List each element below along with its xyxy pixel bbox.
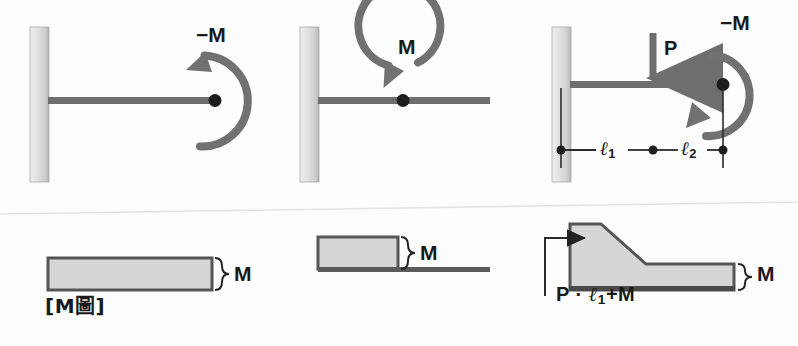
peak-label-prefix: P bbox=[556, 283, 569, 305]
moment-arrow-ccw-3 bbox=[686, 55, 750, 136]
moment-label-case-2: M bbox=[398, 36, 416, 57]
peak-moment-label: P · ℓ1+M bbox=[556, 284, 635, 307]
peak-label-ell: ℓ bbox=[589, 283, 598, 305]
moment-value-label-3: M bbox=[757, 263, 775, 284]
moment-value-label-1: M bbox=[234, 263, 252, 284]
peak-label-subscript: 1 bbox=[598, 292, 606, 307]
moment-value-label-2: M bbox=[420, 242, 438, 263]
dimension-node-left bbox=[557, 146, 566, 155]
wall-support-1 bbox=[30, 27, 49, 182]
dimension-l1-symbol: ℓ bbox=[600, 138, 608, 159]
dimension-l1-subscript: 1 bbox=[608, 146, 615, 161]
panel-case-3 bbox=[552, 27, 750, 182]
diagram-caption: [M圖] bbox=[45, 296, 105, 316]
moment-label-case-1: −M bbox=[196, 24, 226, 45]
beam-end-node-1 bbox=[209, 94, 222, 107]
figure-canvas: −M M −M P ℓ1 ℓ2 M M M [M圖] P · ℓ1+M bbox=[0, 0, 798, 346]
wall-support-2 bbox=[300, 27, 319, 182]
dimension-l2-subscript: 2 bbox=[689, 146, 696, 161]
beam-center-node-2 bbox=[397, 94, 410, 107]
load-label-P: P bbox=[664, 38, 677, 58]
dimension-node-right bbox=[719, 146, 728, 155]
brace-3 bbox=[738, 264, 752, 290]
brace-1 bbox=[215, 258, 229, 290]
panel-case-1 bbox=[30, 27, 248, 182]
dimension-label-l1: ℓ1 bbox=[600, 139, 615, 161]
peak-label-dot: · bbox=[576, 283, 583, 305]
panel-case-2 bbox=[300, 0, 490, 182]
dimension-node-mid bbox=[649, 146, 658, 155]
dimension-label-l2: ℓ2 bbox=[681, 139, 696, 161]
dimension-l2-symbol: ℓ bbox=[681, 138, 689, 159]
beam-1 bbox=[48, 97, 215, 104]
moment-diagram-2 bbox=[318, 237, 490, 272]
moment-label-case-3: −M bbox=[720, 12, 750, 33]
brace-2 bbox=[401, 237, 415, 269]
moment-diagram-1 bbox=[48, 258, 212, 290]
beam-3 bbox=[570, 81, 723, 88]
peak-label-suffix: +M bbox=[606, 283, 635, 305]
section-divider bbox=[0, 202, 798, 214]
